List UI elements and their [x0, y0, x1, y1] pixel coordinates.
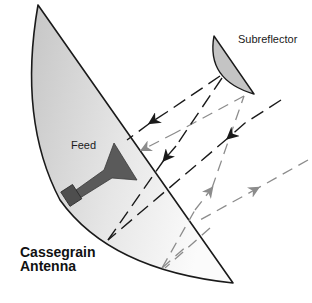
- diagram-title: Cassegrain Antenna: [20, 245, 95, 273]
- title-line-2: Antenna: [20, 259, 95, 273]
- black-ray-2: [176, 78, 222, 146]
- title-line-1: Cassegrain: [20, 245, 95, 259]
- reflected-ray-2: [212, 96, 244, 188]
- black-ray-1-arrow: [150, 112, 167, 123]
- feed-label: Feed: [71, 139, 96, 151]
- subreflector-label: Subreflector: [238, 33, 297, 45]
- black-ray-2-arrow: [164, 146, 176, 160]
- black-ray-3: [245, 100, 281, 123]
- gray-arrow-feed: [142, 133, 175, 150]
- black-ray-1-tail: [127, 123, 150, 140]
- black-ray-1: [167, 76, 220, 112]
- reflected-ray-1-arrow: [195, 188, 212, 210]
- main-reflector: [32, 5, 233, 283]
- incoming-ray-1: [258, 160, 308, 188]
